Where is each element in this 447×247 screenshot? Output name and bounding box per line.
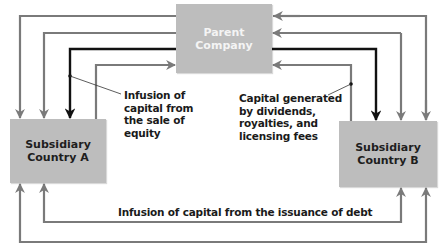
- dividends-label-line: by dividends,: [239, 105, 342, 118]
- parent-company-node: Parent Company: [176, 4, 272, 73]
- subsidiary-a-line1: Subsidiary: [25, 138, 91, 151]
- equity-label-line: equity: [124, 127, 193, 140]
- equity-leader-line: [68, 74, 121, 94]
- parent-company-line2: Company: [195, 39, 252, 52]
- dividends-label: Capital generated by dividends, royaltie…: [239, 92, 342, 142]
- equity-label-line: capital from: [124, 102, 193, 115]
- subsidiary-a-node: Subsidiary Country A: [10, 119, 106, 183]
- subsidiary-b-line2: Country B: [355, 154, 421, 167]
- equity-label-line: Infusion of: [124, 89, 193, 102]
- equity-label: Infusion of capital from the sale of equ…: [124, 89, 193, 139]
- dividends-label-line: royalties, and: [239, 117, 342, 130]
- subsidiary-b-line1: Subsidiary: [355, 141, 421, 154]
- dividends-label-line: Capital generated: [239, 92, 342, 105]
- equity-label-line: the sale of: [124, 114, 193, 127]
- subsidiary-b-node: Subsidiary Country B: [339, 121, 437, 187]
- dividends-label-line: licensing fees: [239, 130, 342, 143]
- subsidiary-a-line2: Country A: [25, 151, 91, 164]
- debt-label: Infusion of capital from the issuance of…: [118, 206, 372, 219]
- parent-company-line1: Parent: [195, 26, 252, 39]
